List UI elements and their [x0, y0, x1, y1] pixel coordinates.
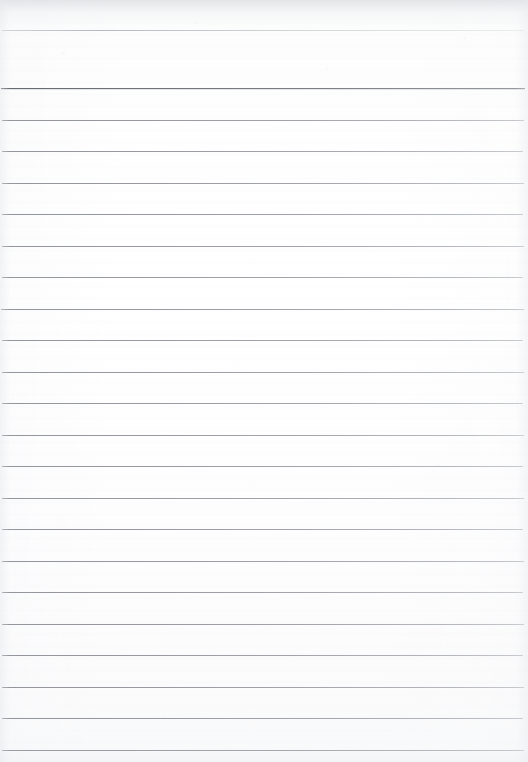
writing-area[interactable]: [0, 0, 528, 762]
lined-paper-page: [0, 0, 528, 762]
